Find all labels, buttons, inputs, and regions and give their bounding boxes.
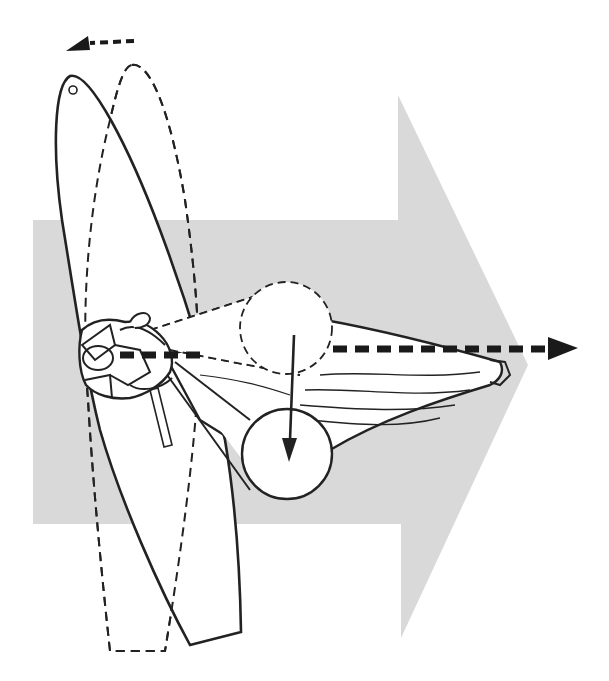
board-rotation-arrow (66, 36, 134, 51)
mast-top-previous-position (240, 282, 332, 374)
board-nose-hole (69, 86, 77, 94)
diagram-canvas: Windsurfing maneuver: sail rotation and … (0, 0, 609, 681)
